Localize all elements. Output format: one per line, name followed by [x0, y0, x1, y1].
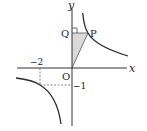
point-p-label: P: [90, 28, 97, 39]
tick-label-y-neg1: −1: [73, 81, 86, 91]
hyperbola-diagram: y x O Q P −2 −1: [0, 0, 147, 131]
y-axis-label: y: [67, 0, 75, 12]
point-q-label: Q: [61, 28, 69, 39]
x-axis-label: x: [129, 62, 136, 75]
origin-label: O: [62, 71, 70, 82]
right-angle-marker: [72, 28, 77, 33]
tick-label-x-neg2: −2: [30, 57, 43, 67]
